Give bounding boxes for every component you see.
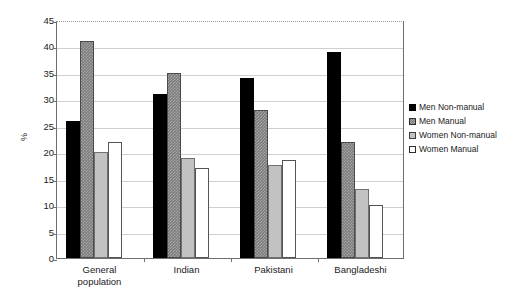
bar[interactable]	[254, 110, 268, 258]
y-axis-tick-label: 0	[30, 254, 54, 264]
y-axis-tick-label: 45	[30, 16, 54, 26]
legend-item[interactable]: Women Manual	[409, 143, 527, 155]
x-axis-category-label: Indian	[143, 264, 230, 276]
plot-area	[56, 21, 404, 259]
y-axis-tick-label: 20	[30, 148, 54, 158]
legend-label: Men Manual	[419, 116, 466, 126]
y-axis-tick-labels: 454035302520151050	[30, 21, 54, 259]
y-axis-tick-label: 35	[30, 69, 54, 79]
legend-swatch-icon	[409, 132, 416, 139]
legend-swatch-icon	[409, 146, 416, 153]
bar-group	[153, 22, 209, 258]
y-axis-tick-mark	[53, 181, 57, 182]
x-axis-tick-mark	[318, 258, 319, 262]
y-axis-tick-label: 15	[30, 175, 54, 185]
bar[interactable]	[153, 94, 167, 258]
x-axis-category-label-line: Pakistani	[230, 264, 317, 276]
bar[interactable]	[80, 41, 94, 258]
x-axis-category-label: Bangladeshi	[317, 264, 404, 276]
bar[interactable]	[268, 165, 282, 258]
y-axis-tick-mark	[53, 22, 57, 23]
bar[interactable]	[108, 142, 122, 258]
x-axis-category-label-line: Indian	[143, 264, 230, 276]
legend-item[interactable]: Men Non-manual	[409, 101, 527, 113]
y-axis-tick-label: 30	[30, 96, 54, 106]
x-axis-tick-mark	[144, 258, 145, 262]
x-axis-category-label-line: General	[56, 264, 143, 276]
y-axis-tick-mark	[53, 154, 57, 155]
y-axis-tick-mark	[53, 101, 57, 102]
legend-swatch-icon	[409, 118, 416, 125]
bar[interactable]	[369, 205, 383, 258]
x-axis-category-label-line: Bangladeshi	[317, 264, 404, 276]
y-axis-tick-mark	[53, 75, 57, 76]
y-axis-tick-mark	[53, 128, 57, 129]
bar-chart: % 454035302520151050 GeneralpopulationIn…	[0, 0, 531, 303]
y-axis-tick-label: 5	[30, 228, 54, 238]
bar[interactable]	[355, 189, 369, 258]
x-axis-category-label: Pakistani	[230, 264, 317, 276]
x-axis-category-labels: GeneralpopulationIndianPakistaniBanglade…	[56, 264, 404, 298]
y-axis-title: %	[19, 130, 29, 144]
legend-item[interactable]: Men Manual	[409, 115, 527, 127]
legend: Men Non-manualMen ManualWomen Non-manual…	[409, 101, 527, 157]
bar[interactable]	[240, 78, 254, 258]
legend-label: Women Non-manual	[419, 130, 497, 140]
bar[interactable]	[195, 168, 209, 258]
x-axis-category-label: Generalpopulation	[56, 264, 143, 288]
bar[interactable]	[341, 142, 355, 258]
bar[interactable]	[282, 160, 296, 258]
x-axis-category-label-line: population	[56, 276, 143, 288]
y-axis-tick-label: 40	[30, 43, 54, 53]
y-axis-tick-mark	[53, 48, 57, 49]
bar[interactable]	[181, 158, 195, 258]
y-axis-tick-label: 25	[30, 122, 54, 132]
legend-label: Men Non-manual	[419, 102, 484, 112]
bar-group	[327, 22, 383, 258]
bar[interactable]	[327, 52, 341, 258]
legend-swatch-icon	[409, 104, 416, 111]
legend-label: Women Manual	[419, 144, 478, 154]
bar[interactable]	[167, 73, 181, 258]
y-axis-tick-label: 10	[30, 201, 54, 211]
y-axis-tick-mark	[53, 207, 57, 208]
bar[interactable]	[66, 121, 80, 259]
bar[interactable]	[94, 152, 108, 258]
bar-group	[240, 22, 296, 258]
x-axis-tick-mark	[231, 258, 232, 262]
bar-group	[66, 22, 122, 258]
y-axis-tick-mark	[53, 260, 57, 261]
legend-item[interactable]: Women Non-manual	[409, 129, 527, 141]
y-axis-tick-mark	[53, 234, 57, 235]
